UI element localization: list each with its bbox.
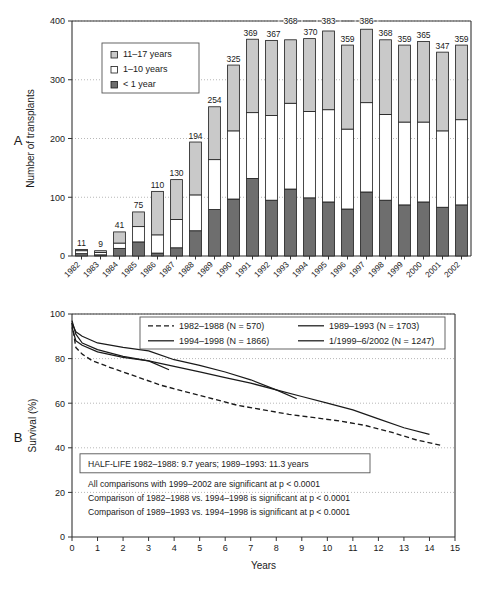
- bar-segment-11-17-years: [380, 40, 392, 115]
- bar-group-1994: [304, 39, 316, 256]
- bar-value-label-1983: 9: [98, 239, 103, 249]
- x-tick-label-10: 10: [322, 543, 332, 553]
- y-tick-label-0: 0: [60, 251, 65, 261]
- x-tick-label-4: 4: [172, 543, 177, 553]
- bar-value-label-1993: 368: [283, 16, 297, 26]
- legend-label-0: 1982–1988 (N = 570): [179, 321, 264, 331]
- bar-segment-11-17-years: [456, 45, 468, 120]
- bar-value-label-1985: 75: [134, 200, 144, 210]
- bar-group-1982: [76, 250, 88, 256]
- bar-segment-1-10-years: [342, 129, 354, 209]
- x-tick-label-0: 0: [69, 543, 74, 553]
- x-tick-label-6: 6: [223, 543, 228, 553]
- bar-value-label-1987: 130: [169, 168, 183, 178]
- bar-segment-11-17-years: [95, 251, 107, 253]
- legend-label-1: 1989–1993 (N = 1703): [329, 321, 419, 331]
- legend-label-2: 1994–1998 (N = 1866): [179, 336, 269, 346]
- bar-segment-11-17-years: [342, 45, 354, 129]
- x-tick-label-14: 14: [424, 543, 434, 553]
- bar-segment-1-10-years: [228, 131, 240, 199]
- bar-segment-under-1-year: [437, 207, 449, 256]
- x-tick-label-1995: 1995: [310, 260, 330, 280]
- x-tick-label-1991: 1991: [234, 260, 254, 280]
- bar-group-1991: [247, 39, 259, 256]
- bar-group-1996: [342, 45, 354, 256]
- bar-segment-under-1-year: [456, 205, 468, 256]
- x-tick-label-1988: 1988: [177, 260, 197, 280]
- significance-note-1: Comparison of 1982–1988 vs. 1994–1998 is…: [88, 493, 350, 503]
- x-tick-label-1983: 1983: [82, 260, 102, 280]
- bar-value-label-1984: 41: [115, 220, 125, 230]
- halflife-text: HALF-LIFE 1982–1988: 9.7 years; 1989–199…: [88, 459, 309, 469]
- bar-segment-under-1-year: [247, 178, 259, 256]
- bar-value-label-1990: 325: [226, 54, 240, 64]
- x-tick-label-1985: 1985: [120, 260, 140, 280]
- bar-group-1992: [266, 40, 278, 256]
- bar-segment-under-1-year: [209, 210, 221, 256]
- x-tick-label-1997: 1997: [348, 260, 368, 280]
- legend-swatch-0: [111, 52, 118, 59]
- x-tick-label-12: 12: [373, 543, 383, 553]
- bar-segment-under-1-year: [361, 192, 373, 256]
- bar-group-1986: [152, 191, 164, 256]
- bar-segment-1-10-years: [266, 116, 278, 201]
- x-tick-label-1: 1: [95, 543, 100, 553]
- bar-segment-1-10-years: [114, 243, 126, 248]
- bar-group-1998: [380, 40, 392, 256]
- bar-segment-11-17-years: [247, 39, 259, 112]
- bar-segment-under-1-year: [418, 202, 430, 256]
- bar-segment-11-17-years: [114, 232, 126, 243]
- panel-b-y-axis-title: Survival (%): [27, 399, 38, 453]
- legend-swatch-1: [111, 67, 118, 74]
- significance-note-2: Comparison of 1989–1993 vs. 1994–1998 is…: [88, 507, 350, 517]
- x-tick-label-1992: 1992: [253, 260, 273, 280]
- legend-label-0: 11–17 years: [123, 49, 172, 59]
- x-tick-label-5: 5: [197, 543, 202, 553]
- bar-segment-1-10-years: [418, 122, 430, 202]
- panel-a-plot: 0100200300400Number of transplantsA19821…: [14, 16, 471, 279]
- bar-segment-1-10-years: [209, 160, 221, 210]
- bar-group-1990: [228, 65, 240, 256]
- bar-value-label-1997: 386: [359, 16, 373, 26]
- bar-segment-11-17-years: [228, 65, 240, 131]
- panel-b-legend: 1982–1988 (N = 570)1989–1993 (N = 1703)1…: [140, 317, 445, 349]
- x-tick-label-2001: 2001: [424, 260, 444, 280]
- x-tick-label-7: 7: [248, 543, 253, 553]
- x-tick-label-1989: 1989: [196, 260, 216, 280]
- x-tick-label-2002: 2002: [443, 260, 463, 280]
- panel-b-plot: 0204060801000123456789101112131415YearsS…: [14, 309, 460, 571]
- bar-segment-11-17-years: [323, 31, 335, 110]
- panel-b-x-axis-title: Years: [251, 560, 276, 571]
- bar-segment-1-10-years: [285, 103, 297, 189]
- y-tick-label-400: 400: [50, 16, 65, 26]
- bar-segment-11-17-years: [152, 191, 164, 234]
- legend-swatch-2: [111, 82, 118, 89]
- bar-value-label-1988: 194: [188, 131, 202, 141]
- x-tick-label-1998: 1998: [367, 260, 387, 280]
- bar-segment-11-17-years: [399, 45, 411, 122]
- y-tick-label-40: 40: [55, 443, 65, 453]
- bar-value-label-1992: 367: [266, 29, 280, 39]
- significance-note-0: All comparisons with 1999–2002 are signi…: [88, 479, 320, 489]
- y-tick-label-100: 100: [50, 309, 65, 319]
- bar-segment-under-1-year: [228, 199, 240, 256]
- bar-group-1985: [133, 212, 145, 256]
- bar-segment-11-17-years: [285, 40, 297, 103]
- bar-group-2000: [418, 42, 430, 256]
- x-tick-label-1990: 1990: [215, 260, 235, 280]
- bar-group-1983: [95, 251, 107, 256]
- x-tick-label-13: 13: [399, 543, 409, 553]
- bar-segment-under-1-year: [342, 209, 354, 256]
- panel-a-label: A: [14, 133, 23, 148]
- bar-value-label-1995: 383: [321, 16, 335, 26]
- x-tick-label-1993: 1993: [272, 260, 292, 280]
- bar-value-label-2001: 347: [435, 41, 449, 51]
- x-tick-label-11: 11: [348, 543, 357, 553]
- bar-value-label-2000: 365: [416, 30, 430, 40]
- bar-segment-11-17-years: [76, 250, 88, 251]
- bar-segment-under-1-year: [399, 205, 411, 256]
- bar-segment-1-10-years: [190, 195, 202, 231]
- bar-segment-1-10-years: [380, 114, 392, 200]
- y-tick-label-200: 200: [50, 134, 65, 144]
- bar-group-1995: [323, 31, 335, 256]
